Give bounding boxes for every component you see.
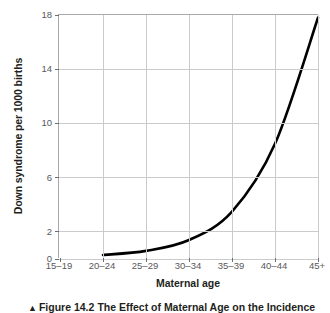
y-tick-label: 2 [47,225,52,236]
x-tick-label: 45+ [309,260,325,271]
y-tick-mark [55,69,59,70]
gridline-vertical [232,15,233,258]
y-tick-label: 18 [41,9,52,20]
gridline-vertical [189,15,190,258]
caption-triangle-icon: ▲ [28,303,37,313]
y-tick-label: 14 [41,63,52,74]
gridline-vertical [103,15,104,258]
gridline-vertical [275,15,276,258]
y-tick-mark [55,15,59,16]
x-tick-label: 15–19 [46,260,72,271]
y-tick-mark [55,123,59,124]
x-axis-title: Maternal age [58,277,318,289]
y-tick-mark [55,177,59,178]
y-tick-label: 6 [47,171,52,182]
caption-text: The Effect of Maternal Age on the Incide… [97,301,315,313]
x-tick-label: 25–29 [132,260,158,271]
plot-area [58,14,318,258]
y-tick-mark [55,231,59,232]
x-axis-tick-labels: 15–1920–2425–2930–3435–3940–4445+ [0,260,330,274]
y-axis-title-text: Down syndrome per 1000 births [12,58,24,214]
x-tick-label: 20–24 [89,260,115,271]
incidence-curve-path [103,18,318,255]
y-axis-title: Down syndrome per 1000 births [8,14,28,258]
y-tick-label: 10 [41,117,52,128]
gridline-vertical [318,15,319,258]
x-tick-label: 40–44 [261,260,287,271]
gridline-vertical [146,15,147,258]
x-tick-label: 30–34 [175,260,201,271]
x-tick-label: 35–39 [218,260,244,271]
caption-figure-number: Figure 14.2 [39,301,94,313]
figure-caption: ▲Figure 14.2The Effect of Maternal Age o… [28,301,328,313]
